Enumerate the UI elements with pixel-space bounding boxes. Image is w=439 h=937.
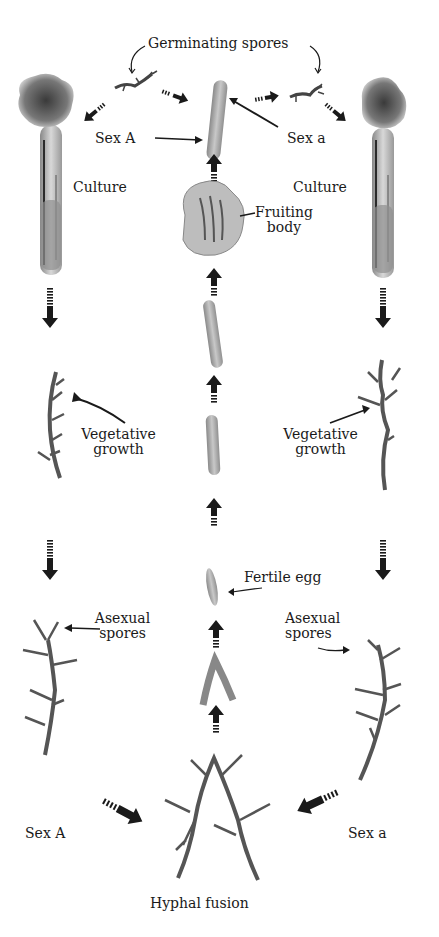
- label-germinating-spores: Germinating spores: [148, 36, 289, 51]
- arrow-down-right-1: [375, 288, 391, 328]
- label-sex-A-top: Sex A: [95, 131, 135, 146]
- label-fertile-egg: Fertile egg: [244, 570, 321, 585]
- arrow-ascus-to-spore-left: [160, 86, 190, 107]
- label-asexual-left: Asexual spores: [85, 611, 160, 641]
- arrow-down-left-2: [42, 540, 58, 580]
- life-cycle-diagram: [0, 0, 439, 937]
- arrow-left-to-fusion: [99, 793, 146, 830]
- pointer-arrow: [232, 100, 278, 127]
- label-fruiting-body: Fruiting body: [255, 205, 313, 235]
- germinating-spore-right: [290, 84, 324, 102]
- ascus-stage-2: [205, 415, 220, 476]
- arrow-right-to-fusion: [294, 784, 341, 819]
- arrow-ascus-to-spore-right: [254, 90, 280, 106]
- label-culture-right: Culture: [293, 180, 347, 195]
- label-culture-left: Culture: [73, 180, 127, 195]
- arrow-spore-to-tube-right: [322, 100, 350, 126]
- pointer-arrow: [131, 46, 145, 72]
- pointer-arrow: [330, 410, 365, 423]
- vegetative-hypha-left: [38, 372, 64, 478]
- culture-tube-right: [362, 77, 406, 278]
- label-sex-A-bottom: Sex A: [25, 826, 65, 841]
- fertile-egg: [204, 567, 220, 606]
- ascus-stage-1: [202, 299, 223, 368]
- label-hyphal-fusion: Hyphal fusion: [150, 896, 249, 911]
- pointer-arrow: [232, 588, 262, 592]
- asexual-hypha-left: [23, 620, 77, 755]
- hyphal-fusion: [165, 755, 270, 880]
- asexual-hypha-right: [355, 640, 401, 780]
- label-vegetative-left: Vegetative growth: [76, 427, 161, 457]
- vegetative-hypha-right: [358, 360, 400, 490]
- label-sex-a-top: Sex a: [287, 131, 326, 146]
- arrow-down-right-2: [375, 540, 391, 580]
- fusion-stage: [203, 660, 233, 705]
- pointer-arrow: [75, 398, 125, 423]
- label-vegetative-right: Vegetative growth: [278, 427, 363, 457]
- pointer-arrow: [318, 648, 345, 651]
- culture-tube-left: [18, 74, 73, 275]
- germinating-spore-left: [115, 71, 157, 91]
- ascus-top: [206, 79, 228, 160]
- label-asexual-right: Asexual spores: [285, 611, 340, 641]
- arrow-down-left-1: [42, 288, 58, 328]
- fruiting-body: [183, 181, 244, 256]
- label-sex-a-bottom: Sex a: [348, 826, 387, 841]
- pointer-arrow: [155, 138, 200, 140]
- arrow-spore-to-tube-left: [80, 100, 108, 126]
